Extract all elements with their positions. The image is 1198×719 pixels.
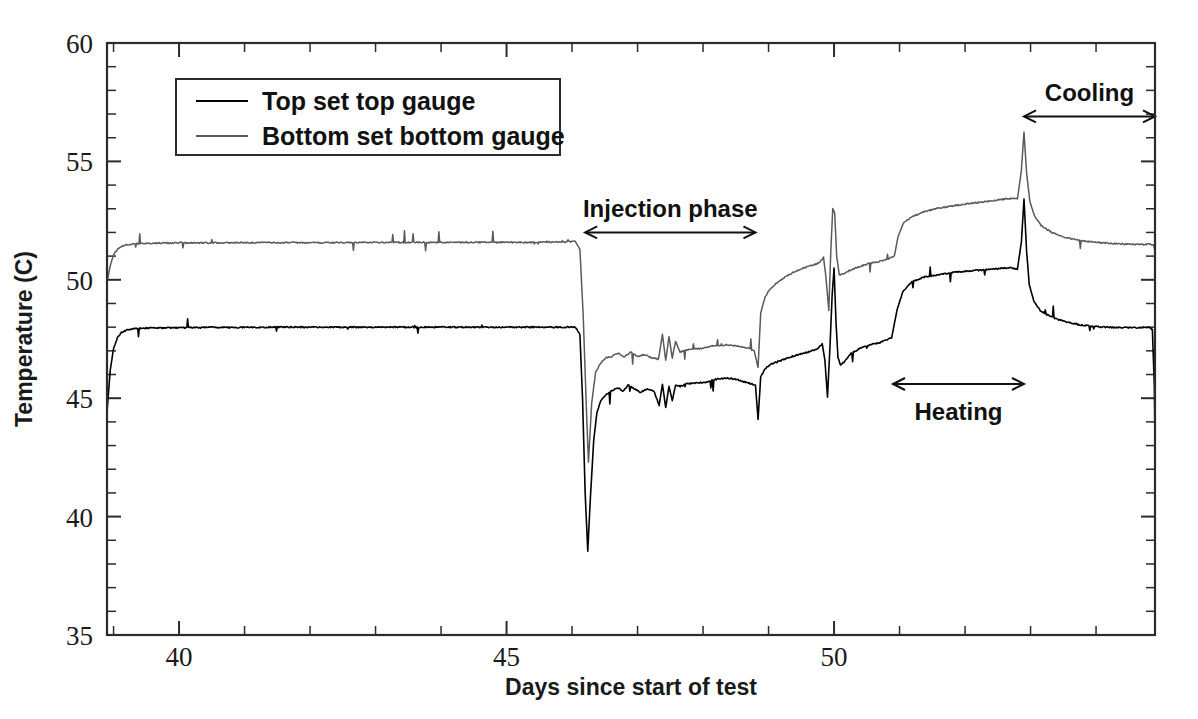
x-axis-title: Days since start of test [505,674,757,700]
legend-label-bottom-set-bottom-gauge: Bottom set bottom gauge [262,122,565,150]
annotation-injection-phase: Injection phase [583,195,758,239]
chart-figure: Temperature (C) Days since start of test… [0,0,1198,719]
chart-svg: Temperature (C) Days since start of test… [0,0,1198,719]
y-tick-label: 45 [66,384,93,414]
y-tick-label: 50 [66,266,93,296]
y-tick-label: 60 [66,29,93,59]
y-tick-label: 55 [66,147,93,177]
y-axis-title: Temperature (C) [11,251,37,427]
annotation-label: Heating [914,398,1002,425]
x-tick-label: 45 [493,642,520,672]
annotation-label: Cooling [1045,79,1134,106]
legend-label-top-set-top-gauge: Top set top gauge [262,87,476,115]
y-tick-label: 40 [66,503,93,533]
y-tick-label: 35 [66,621,93,651]
annotation-label: Injection phase [583,195,758,222]
x-tick-label: 40 [166,642,193,672]
legend: Top set top gauge Bottom set bottom gaug… [176,79,565,155]
x-tick-label: 50 [821,642,848,672]
